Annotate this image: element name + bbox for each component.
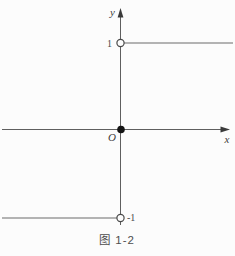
x-axis-arrow-icon: [221, 127, 231, 133]
x-axis-label: x: [224, 133, 230, 145]
open-endpoint-0-minus-1: [117, 214, 124, 221]
y-axis-label: y: [109, 6, 115, 18]
origin-label: O: [108, 131, 116, 143]
filled-point-origin: [117, 126, 125, 134]
figure-container: y x O 1 -1 图 1-2: [0, 0, 235, 256]
tick-label-1: 1: [107, 38, 112, 49]
tick-label-minus-1: -1: [127, 212, 135, 223]
figure-canvas: y x O 1 -1 图 1-2: [0, 0, 235, 256]
open-endpoint-0-1: [117, 39, 124, 46]
y-axis-arrow-icon: [118, 8, 124, 18]
figure-caption: 图 1-2: [99, 234, 135, 246]
